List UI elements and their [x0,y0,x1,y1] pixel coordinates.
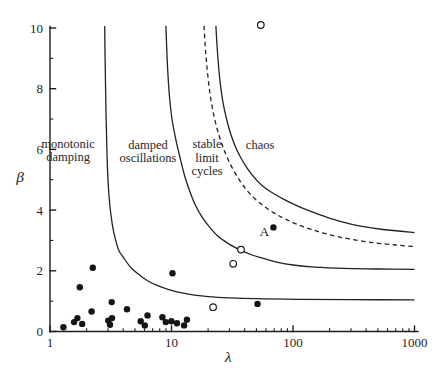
data-point-filled [168,318,174,324]
x-tick-label: 1 [47,335,54,350]
region-label-chaos: chaos [246,138,275,152]
y-axis-title: β [15,168,24,185]
boundary-curve-dashed-boundary [204,26,415,247]
data-point-filled [254,301,260,307]
chart-canvas: 11010010000246810monotonicdampingdampedo… [0,0,440,380]
data-point-filled [124,306,130,312]
data-point-filled [74,315,80,321]
data-point-open [238,246,245,253]
x-tick-label: 1000 [402,335,428,350]
data-point-filled [181,322,187,328]
x-tick-label: 10 [165,335,178,350]
data-point-filled [144,312,150,318]
boundary-curve-limit-cycle-chaos [216,26,415,233]
data-point-open [258,22,265,29]
y-tick-label: 2 [37,263,44,278]
y-tick-label: 8 [37,81,44,96]
data-point-filled [77,284,83,290]
data-point-filled [79,321,85,327]
region-label-damped-oscillations: dampedoscillations [120,138,177,166]
annotation-A: A [259,224,269,239]
data-point-filled [109,299,115,305]
y-tick-label: 10 [30,21,43,36]
data-point-filled [270,224,276,230]
data-point-filled [174,320,180,326]
data-point-open [230,261,237,268]
data-point-open [210,304,217,311]
data-point-filled [109,315,115,321]
data-point-filled [88,308,94,314]
data-point-filled [107,322,113,328]
bifurcation-phase-diagram: 11010010000246810monotonicdampingdampedo… [0,0,440,380]
region-label-stable-limit-cycles: stablelimitcycles [191,137,222,178]
data-point-filled [90,265,96,271]
data-point-filled [184,317,190,323]
data-point-filled [163,319,169,325]
data-point-filled [60,324,66,330]
y-tick-label: 0 [37,324,44,339]
y-tick-label: 4 [37,203,44,218]
data-point-filled [142,322,148,328]
chart-generated-layer: 11010010000246810monotonicdampingdampedo… [30,21,428,350]
x-tick-label: 100 [283,335,303,350]
x-axis-title: λ [224,348,232,365]
region-label-monotonic-damping: monotonicdamping [41,137,95,165]
data-point-filled [169,270,175,276]
